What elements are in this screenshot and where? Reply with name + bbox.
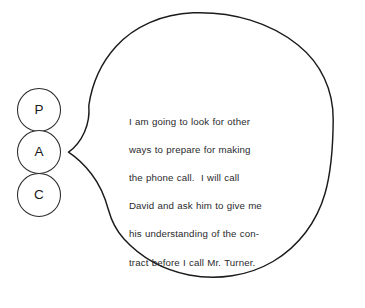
parent-circle[interactable]: P [18, 89, 61, 132]
speech-bubble-line: ways to prepare for making [129, 143, 309, 157]
speech-bubble-line: I am going to look for other [129, 115, 309, 129]
ego-state-column: P A C [18, 89, 61, 217]
adult-circle-label: A [34, 144, 43, 159]
speech-bubble-line: tract before I call Mr. Turner. [129, 256, 309, 270]
parent-circle-label: P [34, 102, 43, 117]
child-circle[interactable]: C [18, 174, 61, 217]
speech-bubble-line: his understanding of the con- [129, 227, 309, 241]
adult-circle[interactable]: A [18, 131, 61, 174]
speech-bubble-line: David and ask him to give me [129, 199, 309, 213]
child-circle-label: C [34, 187, 44, 202]
speech-bubble-line: the phone call. I will call [129, 171, 309, 185]
speech-bubble-text: I am going to look for other ways to pre… [129, 101, 309, 284]
diagram-canvas: P A C I am going to look for other ways … [0, 0, 365, 308]
